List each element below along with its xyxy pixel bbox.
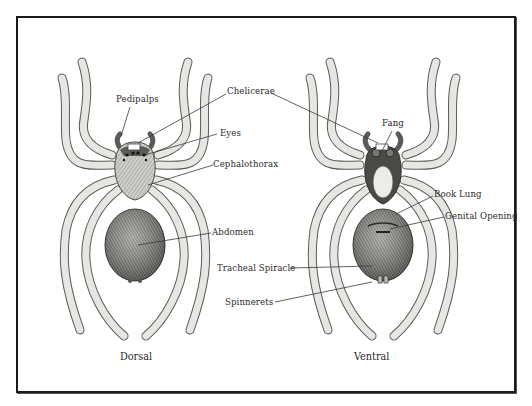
spider-illustration xyxy=(0,0,532,406)
label-genital-opening: Genital Opening xyxy=(445,210,518,221)
label-tracheal-spiracle: Tracheal Spiracle xyxy=(217,262,296,273)
label-abdomen: Abdomen xyxy=(212,226,254,237)
label-pedipalps: Pedipalps xyxy=(116,93,159,104)
label-chelicerae: Chelicerae xyxy=(227,85,275,96)
caption-dorsal: Dorsal xyxy=(120,350,152,363)
label-fang: Fang xyxy=(382,117,404,128)
label-book-lung: Book Lung xyxy=(434,188,482,199)
caption-ventral: Ventral xyxy=(354,350,389,363)
label-spinnerets: Spinnerets xyxy=(225,296,273,307)
label-cephalothorax: Cephalothorax xyxy=(213,158,278,169)
label-eyes: Eyes xyxy=(220,127,241,138)
ventral-spider xyxy=(310,62,456,336)
